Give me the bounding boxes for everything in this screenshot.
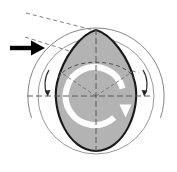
diagram-canvas: Egg-shaped body rotation diagram (0, 0, 177, 172)
upper-tangent-dashed-line (26, 13, 97, 31)
egg-rotation-diagram: Egg-shaped body rotation diagram (0, 0, 177, 172)
